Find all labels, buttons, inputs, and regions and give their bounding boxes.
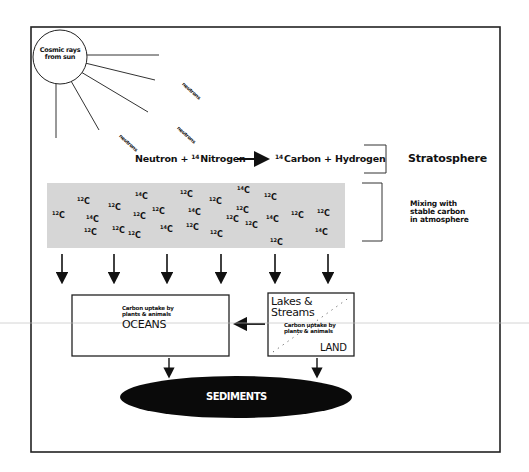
isotope-14c: 14C — [237, 185, 250, 195]
isotope-symbol: C — [271, 193, 277, 202]
lakes-line-2: Streams — [271, 307, 314, 318]
isotope-symbol: C — [324, 209, 330, 218]
isotope-14c: 14C — [160, 224, 173, 234]
isotope-mass: 12 — [133, 211, 140, 217]
isotope-symbol: C — [233, 215, 239, 224]
isotope-12c: 12C — [77, 196, 90, 206]
isotope-symbol: C — [244, 186, 250, 195]
reaction-equation-left: Neutron + 14Nitrogen — [135, 153, 246, 164]
isotope-mass: 12 — [186, 222, 193, 228]
plus-sign: + — [324, 153, 332, 164]
isotope-12c: 12C — [84, 227, 97, 237]
isotope-mass: 12 — [112, 225, 119, 231]
isotope-mass: 12 — [236, 205, 243, 211]
lakes-streams-label: Lakes & Streams — [271, 296, 314, 318]
sun-label-line-2: from sun — [38, 54, 82, 61]
isotope-mass: 12 — [291, 210, 298, 216]
isotope-mass: 14 — [266, 214, 273, 220]
isotope-mass: 12 — [128, 230, 135, 236]
oceans-label: OCEANS — [122, 318, 166, 331]
isotope-mass: 12 — [317, 208, 324, 214]
isotope-mass: 12 — [270, 237, 277, 243]
mixing-label: Mixing with stable carbon in atmosphere — [410, 200, 469, 224]
isotope-symbol: C — [142, 192, 148, 201]
isotope-symbol: C — [91, 228, 97, 237]
isotope-mass: 14 — [315, 227, 322, 233]
isotope-12c: 12C — [128, 230, 141, 240]
isotope-symbol: C — [84, 197, 90, 206]
land-label: LAND — [320, 342, 347, 353]
isotope-14c: 14C — [135, 191, 148, 201]
isotope-12c: 12C — [210, 229, 223, 239]
isotope-symbol: C — [273, 215, 279, 224]
plus-sign: + — [180, 153, 188, 164]
isotope-12c: 12C — [226, 214, 239, 224]
carbon-mass: 14 — [275, 153, 283, 160]
sediments-label: SEDIMENTS — [206, 391, 267, 402]
isotope-12c: 12C — [108, 202, 121, 212]
isotope-12c: 12C — [52, 210, 65, 220]
oceans-uptake-label: Carbon uptake by plants & animals — [122, 305, 174, 317]
isotope-mass: 12 — [52, 210, 59, 216]
isotope-mass: 12 — [77, 196, 84, 202]
oceans-uptake-line-2: plants & animals — [122, 311, 174, 317]
isotope-symbol: C — [115, 203, 121, 212]
isotope-12c: 12C — [180, 189, 193, 199]
isotope-symbol: C — [140, 212, 146, 221]
isotope-symbol: C — [252, 221, 258, 230]
isotope-12c: 12C — [152, 206, 165, 216]
reactant-neutron: Neutron — [135, 153, 177, 164]
stratosphere-label: Stratosphere — [408, 152, 487, 165]
isotope-12c: 12C — [245, 220, 258, 230]
isotope-mass: 14 — [188, 207, 195, 213]
reaction-equation-right: 14Carbon + Hydrogen — [275, 153, 385, 164]
isotope-12c: 12C — [133, 211, 146, 221]
mixing-label-line-3: in atmosphere — [410, 216, 469, 224]
isotope-symbol: C — [135, 231, 141, 240]
isotope-symbol: C — [193, 223, 199, 232]
isotope-symbol: C — [93, 215, 99, 224]
isotope-symbol: C — [322, 228, 328, 237]
isotope-mass: 14 — [237, 185, 244, 191]
isotope-mass: 12 — [209, 196, 216, 202]
isotope-symbol: C — [195, 208, 201, 217]
isotope-symbol: C — [298, 211, 304, 220]
product-hydrogen: Hydrogen — [335, 153, 386, 164]
isotope-mass: 12 — [152, 206, 159, 212]
isotope-symbol: C — [187, 190, 193, 199]
isotope-14c: 14C — [86, 214, 99, 224]
isotope-symbol: C — [277, 238, 283, 247]
isotope-12c: 12C — [270, 237, 283, 247]
isotope-symbol: C — [217, 230, 223, 239]
isotope-mass: 12 — [264, 192, 271, 198]
product-carbon: Carbon — [284, 153, 321, 164]
reactant-nitrogen: Nitrogen — [200, 153, 245, 164]
isotope-mass: 12 — [226, 214, 233, 220]
land-uptake-label: Carbon uptake by plants & animals — [284, 322, 336, 334]
isotope-mass: 14 — [135, 191, 142, 197]
isotope-14c: 14C — [315, 227, 328, 237]
isotope-12c: 12C — [317, 208, 330, 218]
isotope-symbol: C — [167, 225, 173, 234]
isotope-mass: 14 — [86, 214, 93, 220]
isotope-mass: 12 — [84, 227, 91, 233]
isotope-symbol: C — [243, 206, 249, 215]
isotope-mass: 12 — [245, 220, 252, 226]
isotope-12c: 12C — [112, 225, 125, 235]
isotope-12c: 12C — [209, 196, 222, 206]
atmosphere-down-arrows — [62, 254, 328, 278]
isotope-mass: 12 — [210, 229, 217, 235]
isotope-symbol: C — [119, 226, 125, 235]
isotope-mass: 14 — [160, 224, 167, 230]
isotope-symbol: C — [59, 211, 65, 220]
sun-label: Cosmic rays from sun — [38, 47, 82, 61]
land-uptake-line-2: plants & animals — [284, 328, 336, 334]
isotope-12c: 12C — [291, 210, 304, 220]
isotope-14c: 14C — [188, 207, 201, 217]
isotope-12c: 12C — [264, 192, 277, 202]
nitrogen-mass: 14 — [191, 153, 199, 160]
isotope-14c: 14C — [266, 214, 279, 224]
isotope-symbol: C — [216, 197, 222, 206]
bracket-atmosphere — [362, 183, 382, 241]
isotope-12c: 12C — [186, 222, 199, 232]
